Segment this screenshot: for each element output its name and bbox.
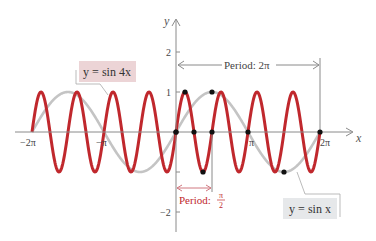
- tick-label-negpi: −π: [96, 137, 107, 148]
- tick-label-yneg2: −2: [160, 207, 171, 218]
- key-point: [281, 169, 286, 174]
- tick-label-neg2pi: −2π: [20, 137, 36, 148]
- tick-label-y2: 2: [166, 47, 171, 58]
- tick-label-y1: 1: [166, 87, 171, 98]
- key-point: [191, 129, 196, 134]
- key-point: [317, 129, 322, 134]
- callout-sin-4x: y = sin 4x: [76, 61, 136, 95]
- key-point: [182, 89, 187, 94]
- callout-sin-x: y = sin x: [283, 172, 340, 219]
- key-point: [200, 169, 205, 174]
- period-fraction-denominator: 2: [219, 201, 223, 210]
- chart: x −2π −π π 2π y 2 1 −2 Period: 2π Period…: [0, 0, 376, 241]
- key-point: [209, 129, 214, 134]
- period-2pi-label: Period: 2π: [224, 59, 270, 71]
- period-pi-over-2-label: Period:: [179, 194, 211, 206]
- x-axis-label: x: [355, 131, 362, 145]
- callout-sin-x-label: y = sin x: [289, 202, 331, 216]
- period-fraction-numerator: π: [219, 191, 223, 200]
- key-point: [173, 129, 178, 134]
- tick-label-pi: π: [249, 137, 254, 148]
- tick-label-2pi: 2π: [320, 137, 330, 148]
- key-point: [245, 129, 250, 134]
- callout-sin-4x-label: y = sin 4x: [83, 65, 131, 79]
- y-axis-label: y: [163, 14, 170, 28]
- key-point: [209, 89, 214, 94]
